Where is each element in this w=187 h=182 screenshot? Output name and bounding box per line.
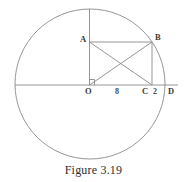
length-label-oc: 8	[115, 88, 119, 96]
vertex-label-a: A	[80, 35, 86, 44]
length-label-cd: 2	[153, 88, 157, 96]
vertex-label-o: O	[85, 87, 92, 96]
circle-shape	[15, 9, 165, 159]
vertex-label-d: D	[168, 87, 174, 96]
figure-container: A B O 8 C 2 D Figure 3.19	[0, 0, 187, 182]
vertex-label-b: B	[155, 33, 161, 42]
vertex-label-c: C	[142, 87, 148, 96]
geometry-diagram	[0, 0, 187, 182]
figure-caption: Figure 3.19	[0, 164, 187, 176]
